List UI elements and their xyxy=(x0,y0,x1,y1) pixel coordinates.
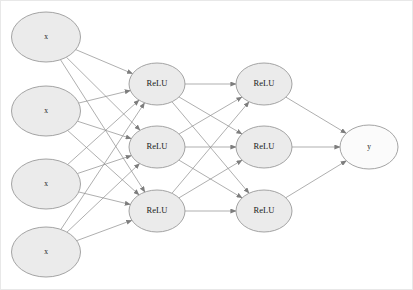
node-hidden2-1[interactable]: ReLU xyxy=(236,63,292,105)
edge-input-4-to-hidden1-3 xyxy=(77,220,132,240)
node-label-output-1: y xyxy=(367,142,371,151)
node-hidden1-3[interactable]: ReLU xyxy=(129,190,185,232)
nodes-group: xxxxReLUReLUReLUReLUReLUReLUy xyxy=(12,12,399,277)
node-input-2[interactable]: x xyxy=(12,86,81,136)
network-canvas: xxxxReLUReLUReLUReLUReLUReLUy xyxy=(1,1,413,290)
node-label-hidden1-2: ReLU xyxy=(147,141,168,151)
neural-network-diagram: xxxxReLUReLUReLUReLUReLUReLUy xyxy=(0,0,413,290)
node-input-4[interactable]: x xyxy=(12,227,81,277)
node-output-1[interactable]: y xyxy=(340,125,398,169)
node-label-input-4: x xyxy=(44,247,48,256)
node-label-input-3: x xyxy=(44,179,48,188)
node-label-hidden2-1: ReLU xyxy=(254,78,275,88)
edge-input-2-to-hidden1-1 xyxy=(79,90,131,103)
node-label-hidden2-3: ReLU xyxy=(254,205,275,215)
edge-input-3-to-hidden1-3 xyxy=(79,192,131,205)
node-label-input-2: x xyxy=(44,106,48,115)
edges-group xyxy=(60,50,346,241)
edge-input-2-to-hidden1-2 xyxy=(77,121,131,138)
node-input-1[interactable]: x xyxy=(12,12,81,62)
node-label-hidden1-3: ReLU xyxy=(147,205,168,215)
edge-input-3-to-hidden1-2 xyxy=(77,156,131,174)
node-hidden2-3[interactable]: ReLU xyxy=(236,190,292,232)
node-hidden1-2[interactable]: ReLU xyxy=(129,126,185,168)
edge-hidden2-3-to-output-1 xyxy=(286,161,347,198)
node-hidden2-2[interactable]: ReLU xyxy=(236,126,292,168)
node-label-input-1: x xyxy=(44,32,48,41)
node-label-hidden1-1: ReLU xyxy=(147,78,168,88)
node-input-3[interactable]: x xyxy=(12,159,81,209)
node-label-hidden2-2: ReLU xyxy=(254,141,275,151)
edge-hidden2-1-to-output-1 xyxy=(286,97,346,133)
node-hidden1-1[interactable]: ReLU xyxy=(129,63,185,105)
edge-input-1-to-hidden1-1 xyxy=(76,50,133,74)
